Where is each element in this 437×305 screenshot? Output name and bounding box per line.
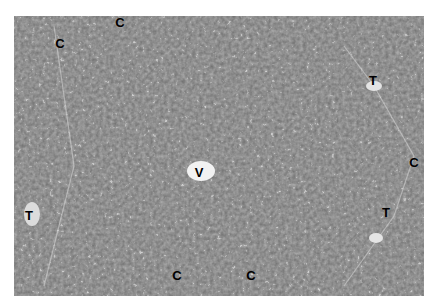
label-t-2: T — [25, 209, 33, 222]
label-c-3: C — [409, 156, 418, 169]
micrograph-image — [14, 16, 424, 296]
label-v: V — [195, 166, 204, 179]
label-c-2: C — [55, 37, 64, 50]
label-t-1: T — [369, 74, 377, 87]
tissue-texture — [14, 16, 424, 296]
label-c-1: C — [115, 16, 124, 29]
label-c-4: C — [172, 269, 181, 282]
label-c-5: C — [246, 269, 255, 282]
label-t-3: T — [382, 206, 390, 219]
